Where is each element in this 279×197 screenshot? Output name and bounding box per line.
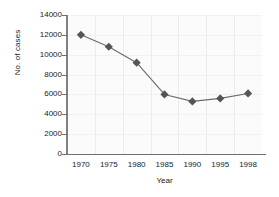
data-point-marker <box>188 97 196 105</box>
y-tick-mark <box>62 134 67 135</box>
data-point-marker <box>77 31 85 39</box>
y-tick-mark <box>62 75 67 76</box>
y-tick-mark <box>62 94 67 95</box>
y-tick-mark <box>62 55 67 56</box>
y-tick-mark <box>62 114 67 115</box>
x-axis-title: Year <box>67 176 262 185</box>
data-series-layer <box>0 0 279 197</box>
data-point-marker <box>216 94 224 102</box>
series-markers <box>77 31 252 106</box>
y-tick-mark <box>62 15 67 16</box>
data-point-marker <box>244 89 252 97</box>
data-point-marker <box>105 43 113 51</box>
line-chart: 02000400060008000100001200014000 1970197… <box>0 0 279 197</box>
y-tick-mark <box>62 35 67 36</box>
y-axis-title: No. of cases <box>13 17 22 89</box>
y-tick-mark <box>62 154 67 155</box>
